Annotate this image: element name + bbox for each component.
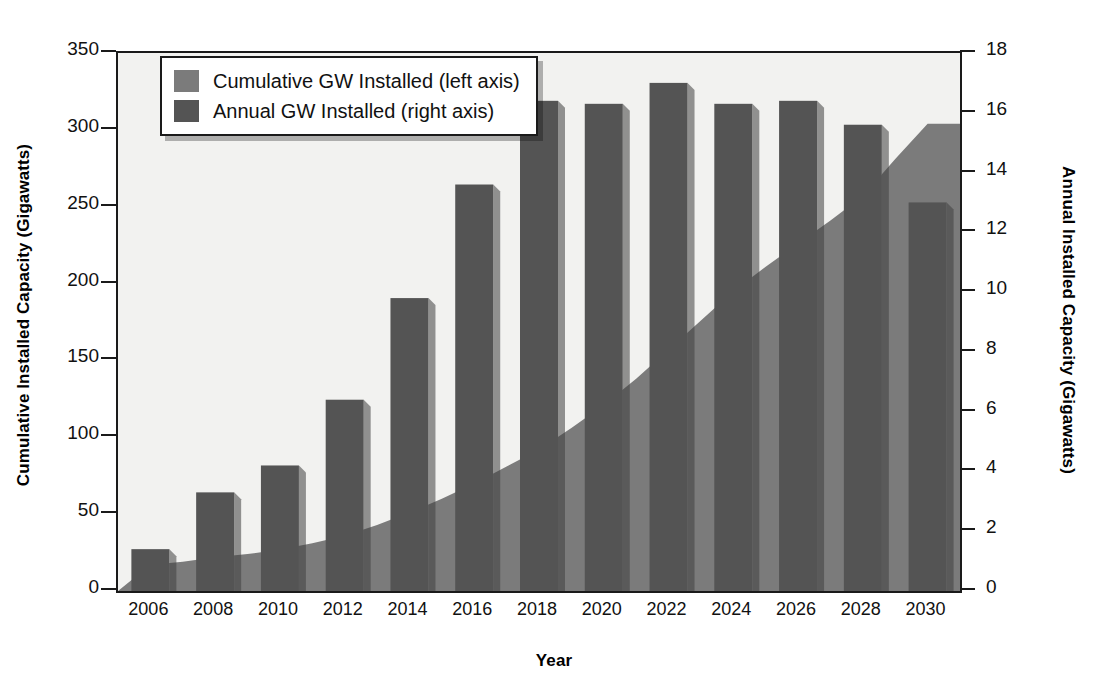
y-axis-right-tick-label: 6: [986, 397, 1046, 419]
legend-item-annual: Annual GW Installed (right axis): [174, 96, 520, 126]
annual-bar-shadow: [947, 202, 954, 591]
x-axis-tick-label: 2006: [113, 599, 183, 620]
x-axis-tick-label: 2028: [826, 599, 896, 620]
x-axis-tick-label: 2026: [761, 599, 831, 620]
annual-bar-shadow: [493, 185, 500, 591]
y-axis-right-tick-label: 2: [986, 516, 1046, 538]
y-axis-left-tick-label: 250: [39, 192, 99, 214]
y-axis-right-tick-label: 18: [986, 38, 1046, 60]
annual-bar: [326, 400, 364, 591]
annual-bar-shadow: [817, 101, 824, 591]
annual-bar: [779, 101, 817, 591]
annual-bar-shadow: [234, 492, 241, 591]
y-axis-right-tick-mark: [960, 468, 975, 470]
y-axis-left-tick-mark: [101, 434, 116, 436]
legend: Cumulative GW Installed (left axis) Annu…: [160, 56, 538, 136]
x-axis-tick-label: 2018: [502, 599, 572, 620]
x-axis-tick-label: 2022: [632, 599, 702, 620]
y-axis-left-tick-mark: [101, 50, 116, 52]
y-axis-right-tick-label: 16: [986, 98, 1046, 120]
y-axis-right-tick-mark: [960, 170, 975, 172]
y-axis-right-tick-label: 12: [986, 217, 1046, 239]
annual-bar: [585, 104, 623, 591]
y-axis-right-tick-mark: [960, 229, 975, 231]
annual-bar-shadow: [558, 101, 565, 591]
y-axis-right-tick-label: 4: [986, 456, 1046, 478]
x-axis-tick-label: 2024: [696, 599, 766, 620]
annual-bar-shadow: [169, 549, 176, 591]
y-axis-left-tick-mark: [101, 204, 116, 206]
y-axis-right-title: Annual Installed Capacity (Gigawatts): [1058, 80, 1078, 560]
x-axis-tick-label: 2030: [891, 599, 961, 620]
annual-bar-shadow: [882, 125, 889, 591]
legend-item-cumulative: Cumulative GW Installed (left axis): [174, 66, 520, 96]
annual-bar-shadow: [364, 400, 371, 591]
annual-bar-shadow: [752, 104, 759, 591]
y-axis-left-tick-label: 350: [39, 38, 99, 60]
annual-bar: [261, 465, 299, 591]
annual-bar: [455, 185, 493, 591]
annual-bar-shadow: [623, 104, 630, 591]
y-axis-left-tick-mark: [101, 588, 116, 590]
annual-bar: [844, 125, 882, 591]
legend-label-cumulative: Cumulative GW Installed (left axis): [213, 70, 520, 93]
x-axis-tick-label: 2012: [308, 599, 378, 620]
legend-swatch-cumulative: [174, 70, 199, 92]
x-axis-tick-label: 2016: [437, 599, 507, 620]
y-axis-left-tick-label: 300: [39, 115, 99, 137]
y-axis-right-tick-mark: [960, 110, 975, 112]
legend-swatch-annual: [174, 100, 199, 122]
y-axis-right-tick-label: 0: [986, 576, 1046, 598]
annual-bar-shadow: [428, 298, 435, 591]
y-axis-left-tick-label: 100: [39, 422, 99, 444]
annual-bar: [650, 83, 688, 591]
y-axis-right-tick-mark: [960, 528, 975, 530]
y-axis-right-tick-mark: [960, 588, 975, 590]
y-axis-left-tick-label: 200: [39, 269, 99, 291]
annual-bar: [196, 492, 234, 591]
annual-bar: [520, 101, 558, 591]
y-axis-left-tick-mark: [101, 127, 116, 129]
y-axis-right-tick-mark: [960, 50, 975, 52]
y-axis-right-tick-label: 8: [986, 337, 1046, 359]
y-axis-right-tick-mark: [960, 349, 975, 351]
y-axis-right-tick-mark: [960, 409, 975, 411]
y-axis-left-tick-label: 0: [39, 576, 99, 598]
chart-figure: Cumulative Installed Capacity (Gigawatts…: [0, 0, 1108, 688]
y-axis-right-tick-label: 14: [986, 158, 1046, 180]
y-axis-left-tick-label: 50: [39, 499, 99, 521]
x-axis-title: Year: [0, 651, 1108, 671]
annual-bar: [131, 549, 169, 591]
y-axis-left-tick-label: 150: [39, 345, 99, 367]
x-axis-tick-label: 2010: [243, 599, 313, 620]
y-axis-left-title: Cumulative Installed Capacity (Gigawatts…: [14, 75, 34, 555]
y-axis-right-tick-mark: [960, 289, 975, 291]
annual-bar: [714, 104, 752, 591]
annual-bar-shadow: [688, 83, 695, 591]
x-axis-tick-label: 2008: [178, 599, 248, 620]
y-axis-left-tick-mark: [101, 281, 116, 283]
y-axis-left-tick-mark: [101, 511, 116, 513]
x-axis-tick-label: 2020: [567, 599, 637, 620]
y-axis-left-tick-mark: [101, 357, 116, 359]
legend-label-annual: Annual GW Installed (right axis): [213, 100, 494, 123]
annual-bar: [390, 298, 428, 591]
annual-bar: [909, 202, 947, 591]
annual-bar-shadow: [299, 465, 306, 591]
x-axis-tick-label: 2014: [372, 599, 442, 620]
y-axis-right-tick-label: 10: [986, 277, 1046, 299]
